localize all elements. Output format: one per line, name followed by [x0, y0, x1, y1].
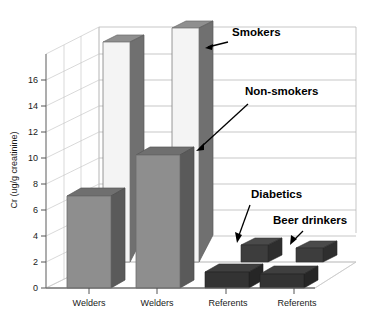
- referents-1-smokers-bar: [241, 238, 282, 262]
- y-tick-label-6: 6: [33, 205, 38, 215]
- annotation-beer-drinkers: Beer drinkers: [273, 214, 347, 245]
- annotation-smokers: Smokers: [205, 26, 281, 50]
- y-tick-label-0: 0: [33, 283, 38, 293]
- annotation-beer-drinkers-label: Beer drinkers: [273, 214, 347, 226]
- y-tick-label-10: 10: [28, 153, 38, 163]
- floor-right-edge: [315, 262, 356, 288]
- y-tick-label-14: 14: [28, 101, 38, 111]
- referents-1-nonsmokers-bar: [205, 264, 263, 288]
- y-tick-label-2: 2: [33, 257, 38, 267]
- welders-2-nonsmokers-bar: [136, 147, 194, 288]
- y-tick-label-8: 8: [33, 179, 38, 189]
- annotation-nonsmokers-label: Non-smokers: [245, 85, 319, 97]
- x-tick-label-0: Welders: [73, 298, 106, 308]
- x-tick-label-3: Referents: [277, 298, 317, 308]
- y-tick-label-4: 4: [33, 231, 38, 241]
- chart-figure: 0 2 4 6 8 10 12 14 16 Cr (ug/g creatinin…: [0, 0, 368, 321]
- annotation-smokers-label: Smokers: [232, 26, 281, 38]
- x-tick-label-1: Welders: [141, 298, 174, 308]
- y-tick-label-12: 12: [28, 127, 38, 137]
- annotation-diabetics-label: Diabetics: [251, 188, 302, 200]
- x-axis: Welders Welders Referents Referents: [73, 288, 317, 308]
- y-tick-label-16: 16: [28, 75, 38, 85]
- referents-2-nonsmokers-bar: [260, 266, 318, 288]
- y-axis-label: Cr (ug/g creatinine): [9, 131, 19, 208]
- y-axis: 0 2 4 6 8 10 12 14 16 Cr (ug/g creatinin…: [9, 54, 46, 293]
- referents-2-smokers-bar: [296, 241, 337, 262]
- bar-chart-3d: 0 2 4 6 8 10 12 14 16 Cr (ug/g creatinin…: [0, 0, 368, 321]
- welders-1-nonsmokers-bar: [67, 188, 125, 288]
- x-tick-label-2: Referents: [208, 298, 248, 308]
- annotation-nonsmokers: Non-smokers: [196, 85, 319, 151]
- y-axis-ticks: 0 2 4 6 8 10 12 14 16: [28, 75, 46, 293]
